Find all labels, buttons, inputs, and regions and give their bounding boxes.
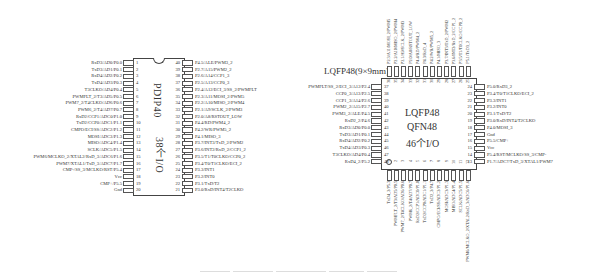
lqfp48-pin-row: 18P4.0/MOSI_3 [464, 125, 513, 131]
pin-number: 21 [172, 187, 180, 193]
pin-pad [182, 181, 193, 186]
pin-label: PWM6/MCLKO_2/XTAL2/RxD_3/ADC6/P1.6 [33, 154, 122, 159]
pin-number: 10 [136, 120, 144, 126]
pdip40-pin-row: 23P3.2/INT0 [172, 174, 215, 180]
pin-number: 47 [384, 152, 392, 158]
lqfp48-pin-row: TxD4/AD3/P0.346 [340, 145, 393, 151]
pin-label: P3.0/RxD/INT4/T2CLKO [195, 187, 243, 192]
pin-label: TxD4/AD3/P0.3 [340, 145, 371, 150]
pin-number: 1 [136, 60, 144, 66]
pin-label: P5.5/CMP+ [487, 138, 509, 143]
lqfp48-pin-row: PWMFLT/SS_2/ECI_3/A12/P2.437 [308, 84, 392, 90]
pin-label: P2.0/A8/RSTOUT_LOW [195, 114, 242, 119]
pin-number: 42 [384, 118, 392, 124]
pin-label: CMPO/ECI/SS/ADC2/P1.2 [436, 181, 441, 227]
pin-pad [371, 118, 382, 123]
pdip40-pin-row: PWMFLT_2/T3/AD5/P0.56 [73, 94, 144, 100]
pin-pad [415, 170, 420, 181]
pin-number: 26 [172, 154, 180, 160]
pin-pad [371, 146, 382, 151]
pin-label: CMPO/ECI/SS/ADC2/P1.2 [71, 127, 122, 132]
pin-label: P3.1/TxD/T2 [487, 111, 511, 116]
lqfp48-pin-row: RxD3/AD0/P0.043 [339, 125, 392, 131]
pin-label: MISO/ADC4/P1.4 [88, 140, 122, 145]
pin-number: 17 [136, 167, 144, 173]
pin-label: P2.5/A13/CCP0_3 [195, 80, 229, 85]
pin-label: SCLK/ADC5/P1.5 [458, 181, 463, 213]
pin-number: 22 [172, 181, 180, 187]
pin-number: 3 [136, 73, 144, 79]
pin-pad [459, 170, 464, 181]
pin-number: 11 [136, 127, 144, 133]
pin-number: 20 [136, 187, 144, 193]
pin-pad [123, 141, 134, 146]
pin-pad [123, 87, 134, 92]
pin-pad [182, 101, 193, 106]
pdip40-pin-row: 24P3.3/INT1 [172, 167, 215, 173]
pin-number: 4 [408, 160, 413, 162]
pin-pad [474, 105, 485, 110]
pin-label: RxD2/CCP1/ADC0/P1.0 [76, 114, 122, 119]
lqfp48-pin-row: 21P3.2/INT0 [464, 104, 507, 110]
pin-label: P3.6/INT2/RxD_2/CCP1_2 [195, 147, 246, 152]
pin-label: T3CLKO/AD4/P0.4 [85, 87, 122, 92]
lqfp48-pin-row: PWM3_2/ALE/P4.541 [332, 111, 392, 117]
pin-pad [123, 107, 134, 112]
pin-label: RxD4/AD2/P0.2 [339, 138, 370, 143]
pin-number: 12 [465, 160, 470, 164]
pin-number: 41 [384, 111, 392, 117]
pdip40-pin-row: SCLK/ADC5/P1.514 [87, 147, 144, 153]
pin-pad [371, 91, 382, 96]
pin-label: P3.2/INT0 [195, 174, 215, 179]
pin-label: PWM7/XTAL1/TxD_3/ADC7/P1.7 [56, 161, 122, 166]
pdip40-pin-row: RxD3/AD0/P0.01 [91, 60, 144, 66]
pin-label: RxD4_2/P5.2 [345, 159, 370, 164]
pin-label: RxD2_2/P4.6 [345, 118, 370, 123]
pin-number: 11 [458, 160, 463, 164]
pin-label: P3.6/INT2/RxD_2/CCP1_2 [451, 18, 456, 64]
pdip40-pin-row: TxD4/AD3/P0.34 [92, 80, 145, 86]
pin-number: 15 [464, 145, 472, 151]
pin-label: T3CLKO/AD4/P0.4 [333, 152, 370, 157]
lqfp48-pin-row: 20P3.1/TxD/T2 [464, 111, 511, 117]
pin-label: P2.3/A11/MOSI_2/PWM5 [195, 94, 244, 99]
pin-number: 18 [464, 125, 472, 131]
pdip40-pin-row: T3CLKO/AD4/P0.45 [85, 87, 144, 93]
pin-number: 9 [136, 114, 144, 120]
pin-label: P4.2/WR/PWM5_2 [195, 127, 231, 132]
pin-number: 40 [384, 104, 392, 110]
pdip40-pin-row: CMP-/SS_3/MCLKO/RST/P5.417 [63, 167, 144, 173]
pin-number: 36 [172, 87, 180, 93]
pin-number: 32 [172, 114, 180, 120]
pin-pad [474, 152, 485, 157]
lqfp48-pin-row: PWM2_2/A15/P2.740 [333, 104, 392, 110]
pin-label: RxD2/CCP1/ADC0/P1.0 [415, 181, 420, 223]
pdip40-pin-row: 22P3.1/TxD/T2 [172, 181, 219, 187]
pin-number: 17 [464, 132, 472, 138]
pin-label: P4.3/RxD_4 [422, 43, 427, 64]
pin-label: PWM6/MCLKO_2/XTAL2/RxD_3/ADC6/P1.6 [465, 181, 470, 262]
pin-pad [371, 98, 382, 103]
pdip40-pin-row: 27P3.6/INT2/RxD_2/CCP1_2 [172, 147, 246, 153]
pin-pad [394, 170, 399, 181]
pin-number: 44 [384, 132, 392, 138]
pin-number: 4 [136, 80, 144, 86]
pin-pad [444, 66, 449, 77]
pin-number: 33 [408, 79, 413, 83]
pin-pad [123, 148, 134, 153]
pin-pad [123, 134, 134, 139]
pin-label: PWMFLT/SS_2/ECI_3/A12/P2.4 [308, 84, 370, 89]
pin-number: 38 [384, 91, 392, 97]
pin-label: MOSI/ADC3/P1.3 [444, 181, 449, 212]
qfn48-name: QFN48 [407, 121, 437, 132]
pin-label: PWMFLT_2/T3/AD5/P0.5 [393, 181, 398, 226]
pin-label: P3.7/INT3/TxD_2/PWM2 [195, 140, 243, 145]
lqfp48-pin-row: 16P5.5/CMP+ [464, 138, 509, 144]
pin-pad [387, 66, 392, 77]
pdip40-pin-row: 28P3.7/INT3/TxD_2/PWM2 [172, 140, 243, 146]
pin-number: 32 [415, 79, 420, 83]
pdip40-pin-row: 40P4.5/ALE/PWM3_2 [172, 60, 233, 66]
pin-pad [182, 174, 193, 179]
pdip40-io-count: 38个I/O [152, 137, 167, 173]
lqfp48-pin-row: 13P1.7/ADC7/TxD_3/XTAL1/PWM7 [464, 159, 553, 165]
